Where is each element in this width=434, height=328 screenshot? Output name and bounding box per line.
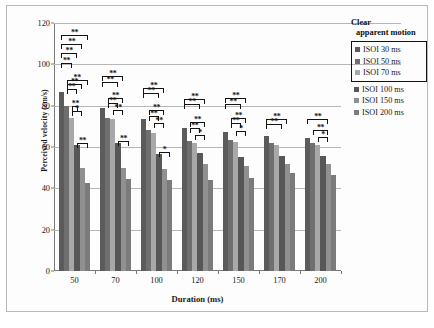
legend-item[interactable]: ISOI 100 ms — [354, 84, 425, 96]
x-axis-tick-label: 200 — [305, 276, 337, 285]
legend-rest-group: ISOI 100 msISOI 150 msISOI 200 ms — [351, 82, 427, 121]
bar — [167, 180, 172, 271]
bar — [290, 173, 295, 271]
legend-item[interactable]: ISOI 50 ms — [355, 56, 424, 68]
significance-stars: ** — [184, 98, 200, 105]
legend-swatch-icon — [355, 70, 360, 75]
significance-bracket: * — [195, 131, 206, 140]
legend: Clear apparent motion ISOI 30 msISOI 50 … — [351, 18, 427, 120]
x-axis-tick-label: 50 — [59, 276, 91, 285]
x-axis-tick-label: 170 — [264, 276, 296, 285]
significance-bracket: * — [236, 127, 247, 136]
significance-stars: ** — [102, 76, 118, 83]
y-axis-tick-mark — [51, 23, 54, 24]
x-axis-tick-mark — [177, 271, 178, 274]
significance-stars: ** — [307, 113, 328, 120]
legend-label: ISOI 30 ms — [363, 45, 401, 54]
legend-label: ISOI 70 ms — [363, 68, 401, 77]
significance-stars: * — [318, 131, 329, 138]
legend-item[interactable]: ISOI 30 ms — [355, 44, 424, 56]
bar — [331, 175, 336, 271]
legend-label: ISOI 100 ms — [362, 85, 404, 94]
significance-bracket: ** — [143, 89, 159, 98]
legend-swatch-icon — [354, 110, 359, 115]
significance-bracket: ** — [61, 59, 72, 68]
plot-area: 020406080100120 5070100120150170200 ****… — [54, 23, 341, 271]
significance-stars: ** — [61, 57, 72, 64]
x-axis-tick-label: 150 — [223, 276, 255, 285]
significance-stars: ** — [61, 29, 88, 36]
significance-stars: ** — [61, 38, 82, 45]
significance-bracket: ** — [102, 78, 118, 87]
significance-stars: * — [72, 105, 83, 112]
y-axis-tick-mark — [51, 271, 54, 272]
significance-bracket: ** — [113, 106, 124, 115]
y-axis-tick-mark — [51, 105, 54, 106]
bar-group: 170 — [264, 23, 296, 271]
significance-stars: * — [236, 125, 247, 132]
bar-group: 120 — [182, 23, 214, 271]
significance-bracket: ** — [225, 100, 241, 109]
legend-title-line1: Clear — [351, 18, 371, 27]
significance-stars: ** — [118, 135, 129, 142]
legend-item[interactable]: ISOI 200 ms — [354, 107, 425, 119]
bar — [249, 178, 254, 271]
x-axis-tick-label: 120 — [182, 276, 214, 285]
bar — [208, 180, 213, 271]
x-axis-tick-label: 70 — [100, 276, 132, 285]
legend-title: Clear apparent motion — [351, 18, 427, 38]
significance-bracket: * — [72, 107, 83, 116]
y-axis-tick-mark — [51, 64, 54, 65]
x-axis-tick-label: 100 — [141, 276, 173, 285]
significance-bracket: ** — [77, 139, 88, 148]
bar — [126, 179, 131, 271]
bar-group: 150 — [223, 23, 255, 271]
significance-stars: ** — [225, 98, 241, 105]
legend-item[interactable]: ISOI 150 ms — [354, 95, 425, 107]
significance-bracket: ** — [67, 85, 78, 94]
bar-group: 200 — [305, 23, 337, 271]
significance-stars: ** — [266, 118, 282, 125]
significance-stars: ** — [113, 104, 124, 111]
bar — [85, 183, 90, 271]
significance-bracket: ** — [118, 137, 129, 146]
y-axis-tick-label: 80 — [42, 101, 50, 110]
significance-stars: ** — [143, 87, 159, 94]
bar-group: 70 — [100, 23, 132, 271]
legend-label: ISOI 200 ms — [362, 108, 404, 117]
legend-swatch-icon — [354, 87, 359, 92]
x-axis-tick-mark — [341, 271, 342, 274]
x-axis-tick-mark — [218, 271, 219, 274]
y-axis-tick-label: 0 — [46, 267, 50, 276]
significance-bracket: * — [318, 133, 329, 142]
x-axis-title: Duration (ms) — [54, 294, 341, 304]
y-axis-tick-mark — [51, 188, 54, 189]
significance-stars: ** — [154, 117, 165, 124]
x-axis-tick-mark — [300, 271, 301, 274]
y-axis-tick-label: 100 — [37, 60, 50, 69]
significance-stars: * — [195, 129, 206, 136]
y-axis-tick-label: 40 — [42, 184, 50, 193]
legend-boxed-group: ISOI 30 msISOI 50 msISOI 70 ms — [351, 41, 427, 82]
significance-stars: ** — [77, 137, 88, 144]
legend-item[interactable]: ISOI 70 ms — [355, 67, 424, 79]
significance-bracket: * — [159, 148, 170, 157]
significance-stars: ** — [231, 117, 242, 124]
legend-swatch-icon — [355, 47, 360, 52]
significance-stars: ** — [61, 47, 77, 54]
x-axis-tick-mark — [136, 271, 137, 274]
legend-title-line2: apparent motion — [351, 28, 427, 38]
x-axis-tick-mark — [259, 271, 260, 274]
y-axis-tick-label: 60 — [42, 143, 50, 152]
y-axis-tick-mark — [51, 229, 54, 230]
legend-swatch-icon — [355, 59, 360, 64]
y-axis-tick-label: 120 — [37, 19, 50, 28]
significance-bracket: ** — [154, 119, 165, 128]
chart-figure: Perceived velocity (cm/s) 02040608010012… — [6, 5, 428, 312]
legend-swatch-icon — [354, 98, 359, 103]
significance-bracket: ** — [266, 120, 282, 129]
significance-bracket: ** — [184, 100, 200, 109]
legend-label: ISOI 50 ms — [363, 57, 401, 66]
x-axis-tick-mark — [95, 271, 96, 274]
significance-stars: ** — [67, 83, 78, 90]
